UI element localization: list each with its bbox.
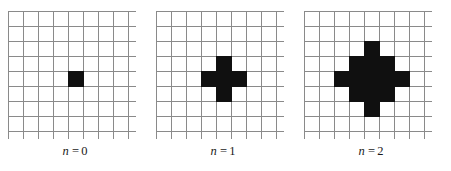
empty-cell	[277, 57, 291, 71]
caption-value: 1	[229, 144, 235, 158]
empty-cell	[129, 87, 143, 101]
cell-grid-n-1	[156, 11, 284, 139]
empty-cell	[39, 87, 53, 101]
empty-cell	[305, 57, 319, 71]
empty-cell	[320, 72, 334, 86]
empty-cell	[69, 12, 83, 26]
filled-cell	[365, 87, 379, 101]
empty-cell	[114, 72, 128, 86]
empty-cell	[172, 117, 186, 131]
empty-cell	[24, 12, 38, 26]
empty-cell	[262, 72, 276, 86]
empty-cell	[84, 102, 98, 116]
caption-equals: =	[72, 144, 79, 158]
empty-cell	[410, 57, 424, 71]
empty-cell	[172, 12, 186, 26]
empty-cell	[202, 57, 216, 71]
empty-cell	[24, 87, 38, 101]
empty-cell	[39, 117, 53, 131]
empty-cell	[187, 27, 201, 41]
empty-cell	[410, 102, 424, 116]
empty-cell	[99, 117, 113, 131]
empty-cell	[202, 117, 216, 131]
empty-cell	[277, 72, 291, 86]
empty-cell	[262, 42, 276, 56]
empty-cell	[410, 27, 424, 41]
empty-cell	[202, 87, 216, 101]
caption-variable: n	[62, 144, 68, 158]
caption-variable: n	[358, 144, 364, 158]
empty-cell	[69, 57, 83, 71]
empty-cell	[232, 87, 246, 101]
empty-cell	[395, 42, 409, 56]
empty-cell	[320, 57, 334, 71]
empty-cell	[9, 87, 23, 101]
empty-cell	[39, 12, 53, 26]
empty-cell	[232, 12, 246, 26]
empty-cell	[395, 12, 409, 26]
empty-cell	[320, 42, 334, 56]
caption-n-2: n=2	[298, 144, 444, 159]
empty-cell	[129, 27, 143, 41]
empty-cell	[410, 42, 424, 56]
empty-cell	[277, 87, 291, 101]
empty-cell	[262, 87, 276, 101]
filled-cell	[350, 72, 364, 86]
empty-cell	[24, 42, 38, 56]
empty-cell	[114, 102, 128, 116]
empty-cell	[335, 42, 349, 56]
empty-cell	[9, 117, 23, 131]
empty-cell	[157, 57, 171, 71]
empty-cell	[39, 57, 53, 71]
empty-cell	[365, 27, 379, 41]
empty-cell	[172, 102, 186, 116]
empty-cell	[9, 72, 23, 86]
empty-cell	[350, 27, 364, 41]
empty-cell	[217, 27, 231, 41]
empty-cell	[99, 12, 113, 26]
empty-cell	[335, 57, 349, 71]
empty-cell	[350, 42, 364, 56]
panel-n-2: n=2	[298, 0, 444, 171]
empty-cell	[247, 102, 261, 116]
empty-cell	[277, 27, 291, 41]
empty-cell	[9, 102, 23, 116]
empty-cell	[425, 27, 439, 41]
empty-cell	[380, 42, 394, 56]
grid-container-n-1	[156, 11, 284, 139]
empty-cell	[114, 27, 128, 41]
empty-cell	[335, 27, 349, 41]
empty-cell	[39, 72, 53, 86]
empty-cell	[425, 72, 439, 86]
empty-cell	[69, 102, 83, 116]
filled-cell	[350, 57, 364, 71]
empty-cell	[277, 42, 291, 56]
empty-cell	[39, 27, 53, 41]
empty-cell	[84, 72, 98, 86]
empty-cell	[187, 72, 201, 86]
empty-cell	[39, 42, 53, 56]
filled-cell	[202, 72, 216, 86]
empty-cell	[320, 12, 334, 26]
empty-cell	[84, 27, 98, 41]
empty-cell	[232, 57, 246, 71]
empty-cell	[305, 102, 319, 116]
filled-cell	[380, 72, 394, 86]
empty-cell	[157, 42, 171, 56]
empty-cell	[202, 42, 216, 56]
caption-equals: =	[220, 144, 227, 158]
empty-cell	[114, 12, 128, 26]
empty-cell	[320, 27, 334, 41]
filled-cell	[395, 72, 409, 86]
empty-cell	[129, 42, 143, 56]
empty-cell	[172, 57, 186, 71]
empty-cell	[410, 12, 424, 26]
empty-cell	[9, 12, 23, 26]
filled-cell	[380, 57, 394, 71]
empty-cell	[172, 72, 186, 86]
empty-cell	[262, 57, 276, 71]
filled-cell	[350, 87, 364, 101]
empty-cell	[84, 117, 98, 131]
empty-cell	[410, 117, 424, 131]
empty-cell	[247, 87, 261, 101]
